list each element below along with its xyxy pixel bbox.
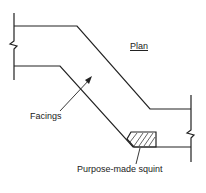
right-break-line (187, 95, 194, 162)
squint-label: Purpose-made squint (77, 165, 163, 174)
left-break-line (10, 13, 17, 80)
facings-label: Facings (30, 112, 62, 121)
inner-face (14, 66, 191, 147)
squint-leader (136, 148, 140, 164)
squint-brick (127, 132, 156, 147)
plan-title: Plan (130, 42, 148, 51)
squint-hatching (130, 133, 155, 146)
plan-diagram: Plan Facings Purpose-made squint (0, 0, 206, 193)
outer-face (14, 26, 191, 109)
